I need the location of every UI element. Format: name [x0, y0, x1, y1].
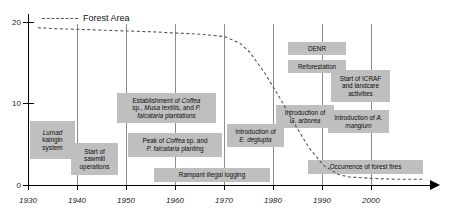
event-text-plantations-em2: Musa textilis	[144, 104, 179, 111]
legend-label-forest-area: Forest Area	[83, 13, 130, 23]
x-tick-label-2000: 2000	[351, 196, 391, 205]
event-box-plantations: Establishment of Coffea sp., Musa textil…	[117, 93, 216, 123]
event-text-plantations-2: sp.,	[132, 104, 144, 111]
event-text-peak-2b: planting	[179, 145, 203, 152]
event-text-plantations-3b: plantations	[163, 112, 196, 119]
event-text-g-arborea-em1: G. arborea	[290, 117, 321, 124]
event-box-peak-planting: Peak of Coffea sp. and P. falcataria pla…	[128, 133, 222, 157]
event-box-illegal-logging: Rampant illegal logging	[154, 168, 270, 182]
event-box-a-mangium: Introduction of A. mangium	[328, 110, 389, 133]
event-text-a-mangium-em1: A.	[377, 114, 383, 121]
y-tick-mark-10	[23, 103, 34, 104]
x-tick-mark-1970	[224, 185, 225, 190]
gridline-1970	[224, 24, 225, 185]
event-text-sawmill-line1: Start of	[84, 148, 105, 155]
event-text-plantations-1: Establishment of	[133, 97, 182, 104]
x-tick-mark-1930	[28, 185, 29, 190]
event-text-forest-fires: Occurrence of forest fires	[330, 163, 402, 171]
event-text-g-arborea-line1: Introduction of	[285, 109, 326, 116]
event-text-icraf-line2: and landcare	[342, 82, 379, 89]
event-text-plantations-2b: , and	[180, 104, 196, 111]
legend-line-swatch-forest-area	[42, 18, 78, 19]
event-box-denr: DENR	[288, 42, 346, 55]
event-text-lumad-kaingin-line1: Lumad	[43, 129, 63, 136]
x-tick-label-1980: 1980	[253, 196, 293, 205]
x-tick-mark-2000	[371, 185, 372, 190]
y-axis-line	[28, 14, 29, 185]
x-axis-arrow-icon	[430, 180, 440, 190]
event-text-lumad-kaingin-line3: system	[42, 144, 62, 151]
x-tick-label-1990: 1990	[302, 196, 342, 205]
y-tick-mark-20	[23, 22, 34, 23]
x-tick-label-1930: 1930	[8, 196, 48, 205]
event-text-e-deglupta-em1: E. deglupta	[239, 136, 271, 143]
event-text-denr: DENR	[308, 45, 326, 53]
event-text-plantations-em3: P.	[196, 104, 201, 111]
x-tick-label-1970: 1970	[204, 196, 244, 205]
event-text-sawmill-line3: operations	[80, 163, 110, 170]
y-tick-label-20: 20	[0, 18, 21, 27]
x-tick-label-1960: 1960	[155, 196, 195, 205]
event-text-plantations-3a: falcataria	[137, 112, 163, 119]
event-box-g-arborea: Introduction of G. arborea	[276, 105, 334, 128]
event-text-plantations-em1: Coffea	[182, 97, 201, 104]
y-tick-label-0: 0	[0, 181, 21, 190]
x-tick-mark-1980	[273, 185, 274, 190]
legend: Forest Area	[42, 12, 130, 24]
event-box-forest-fires: Occurrence of forest fires	[308, 160, 423, 174]
event-text-icraf-line3: activities	[348, 90, 373, 97]
x-tick-mark-1940	[77, 185, 78, 190]
event-text-lumad-kaingin-line2: kaingin	[42, 136, 62, 143]
event-text-peak-em1: Coffea	[166, 137, 185, 144]
event-box-sawmill: Start of sawmill operations	[71, 143, 118, 175]
x-tick-label-1950: 1950	[106, 196, 146, 205]
event-box-icraf-landcare: Start of ICRAF and landcare activities	[331, 70, 390, 102]
event-text-a-mangium-em2: mangium	[345, 122, 371, 129]
gridline-1980	[273, 24, 274, 185]
forest-area-timeline-chart: 0 10 20 1930 1940 1950 1960 1970 1980 19…	[0, 0, 457, 220]
x-tick-mark-1950	[126, 185, 127, 190]
event-text-a-mangium-1a: Introduction of	[334, 114, 376, 121]
y-tick-label-10: 10	[0, 99, 21, 108]
event-text-peak-1b: sp. and	[185, 137, 208, 144]
x-tick-mark-1990	[322, 185, 323, 190]
event-text-icraf-line1: Start of ICRAF	[340, 75, 382, 82]
event-text-peak-1a: Peak of	[142, 137, 165, 144]
event-text-illegal-logging: Rampant illegal logging	[179, 171, 245, 179]
event-text-sawmill-line2: sawmill	[84, 155, 105, 162]
event-text-peak-em2: P. falcataria	[146, 145, 179, 152]
event-text-e-deglupta-line1: Introduction of	[235, 128, 276, 135]
event-box-lumad-kaingin: Lumad kaingin system	[30, 121, 75, 159]
x-tick-mark-1960	[175, 185, 176, 190]
x-tick-label-1940: 1940	[57, 196, 97, 205]
